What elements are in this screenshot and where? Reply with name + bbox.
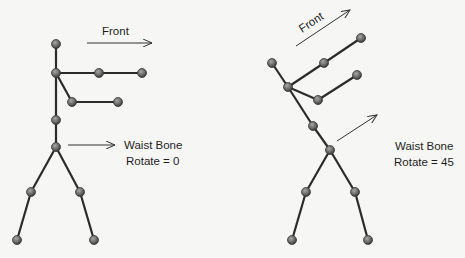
front-label-left: Front [102, 25, 130, 37]
front-label-right: Front [297, 10, 327, 35]
waist-label-left-line1: Waist Bone [124, 139, 182, 151]
waist-label-right-line2: Rotate = 45 [394, 156, 454, 168]
skeleton-rotate-45 [272, 38, 368, 240]
waist-bone-rotation-diagram: Front Waist Bone Rotate = 0 Front Waist … [0, 0, 465, 258]
waist-label-left-line2: Rotate = 0 [126, 155, 179, 167]
skeleton-joints-rotate-45 [268, 34, 373, 245]
waist-arrow-right [337, 115, 377, 141]
waist-label-right-line1: Waist Bone [395, 140, 453, 152]
